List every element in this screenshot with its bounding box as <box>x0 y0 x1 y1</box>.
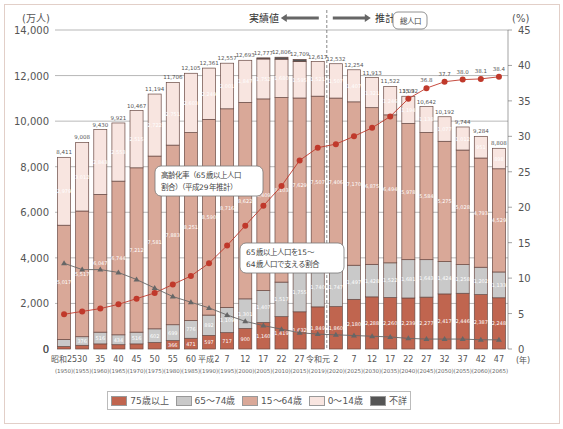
total-label: 12,254 <box>344 62 364 68</box>
segment-label: 597 <box>204 339 214 345</box>
marker-circle-icon <box>496 74 502 80</box>
x-tick-western: (1980) <box>164 368 182 374</box>
segment-label: 2,553 <box>111 149 125 155</box>
x-tick-label: 30 <box>77 355 87 364</box>
segment-label: 2,446 <box>456 318 470 324</box>
marker-circle-icon <box>405 96 411 102</box>
x-tick-label: 42 <box>476 355 486 364</box>
segment-label: 892 <box>204 322 214 328</box>
bar-segment <box>76 345 89 349</box>
segment-label: 900 <box>240 336 250 342</box>
y-right-tick-label: 20 <box>518 202 531 213</box>
y-tick-label: 4,000 <box>20 253 49 264</box>
segment-label: 7,883 <box>166 232 180 238</box>
rate-label: 36.8 <box>420 77 433 83</box>
segment-label: 951 <box>476 144 486 150</box>
bar-segment <box>148 343 161 349</box>
segment-label: 2,722 <box>147 122 161 128</box>
segment-label: 1,849 <box>311 325 325 331</box>
segment-label: 5,017 <box>57 279 71 285</box>
segment-label: 1,301 <box>238 311 252 317</box>
swatch-65-74 <box>176 396 192 406</box>
x-tick-western: (1965) <box>109 368 127 374</box>
x-tick-western: (1990) <box>200 368 218 374</box>
segment-label: 2,249 <box>202 91 216 97</box>
legend-item-15-64: 15〜64歳 <box>242 394 302 407</box>
y-axis-unit: (万人) <box>22 13 50 24</box>
segment-label: 6,494 <box>383 186 397 192</box>
total-label: 12,105 <box>181 65 201 71</box>
x-tick-western: (1985) <box>182 368 200 374</box>
segment-label: 2,417 <box>437 318 451 324</box>
legend-label: 0〜14歳 <box>328 394 363 407</box>
x-tick-label: 12 <box>367 355 377 364</box>
callout-total-text: 総人口 <box>400 16 421 26</box>
segment-label: 1,747 <box>329 284 343 290</box>
marker-circle-icon <box>387 113 393 119</box>
segment-label: 516 <box>132 335 142 341</box>
segment-label: 699 <box>168 330 178 336</box>
segment-label: 5,978 <box>401 189 415 195</box>
total-label: 12,806 <box>272 49 292 55</box>
segment-label: 2,288 <box>365 320 379 326</box>
x-tick-western: (2060) <box>472 368 490 374</box>
callout-aging-text: 割合）（平成29年推計） <box>161 182 237 192</box>
x-tick-western: (1960) <box>91 368 109 374</box>
segment-label: 1,643 <box>419 275 433 281</box>
segment-label: 2,515 <box>129 136 143 142</box>
rate-label: 35.3 <box>402 88 415 94</box>
segment-label: 1,847 <box>238 78 252 84</box>
segment-label: 516 <box>96 335 106 341</box>
marker-circle-icon <box>460 77 466 83</box>
y-right-tick-label: 45 <box>518 25 531 36</box>
segment-label: 717 <box>222 338 232 344</box>
x-tick-label: 7 <box>351 355 356 364</box>
y-tick-label: 6,000 <box>20 207 49 218</box>
segment-label: 776 <box>186 326 196 332</box>
marker-circle-icon <box>369 125 375 131</box>
marker-circle-icon <box>442 79 448 85</box>
marker-circle-icon <box>188 273 194 279</box>
marker-circle-icon <box>423 85 429 91</box>
marker-circle-icon <box>97 306 103 312</box>
x-tick-label: 55 <box>168 355 178 364</box>
y-zero: 0 <box>43 344 49 355</box>
legend-item-65-74: 65〜74歳 <box>176 394 236 407</box>
bar-segment <box>130 344 143 349</box>
swatch-75plus <box>111 396 127 406</box>
marker-circle-icon <box>224 243 230 249</box>
x-tick-label: 17 <box>385 355 395 364</box>
y-tick-label: 14,000 <box>14 25 49 36</box>
bar-segment <box>58 347 71 349</box>
x-tick-western: (2025) <box>345 368 363 374</box>
segment-label: 471 <box>186 341 196 347</box>
segment-label: 8,716 <box>220 205 234 211</box>
total-label: 8,808 <box>491 140 507 146</box>
y-right-tick-label: 35 <box>518 96 531 107</box>
segment-label: 1,321 <box>365 90 379 96</box>
total-label: 9,921 <box>111 115 127 121</box>
rate-label: 38.1 <box>475 68 487 74</box>
segment-label: 5,517 <box>75 271 89 277</box>
x-tick-label: 40 <box>113 355 123 364</box>
legend: 75歳以上 65〜74歳 15〜64歳 0〜14歳 不詳 <box>107 391 411 410</box>
x-tick-label: 22 <box>403 355 413 364</box>
legend-item-unknown: 不詳 <box>370 394 407 407</box>
total-label: 11,706 <box>163 74 183 80</box>
rate-label: 38.4 <box>493 66 506 72</box>
segment-label: 434 <box>114 337 124 343</box>
segment-label: 6,047 <box>93 260 107 266</box>
segment-label: 1,522 <box>383 277 397 283</box>
total-label: 12,557 <box>218 55 238 61</box>
total-label: 12,532 <box>326 56 345 62</box>
x-tick-western: (2030) <box>363 368 381 374</box>
callout-support-text: 65歳以上人口を15〜 <box>246 247 315 257</box>
marker-circle-icon <box>79 308 85 314</box>
bar-segment <box>257 58 270 59</box>
segment-label: 1,407 <box>256 304 270 310</box>
segment-label: 2,979 <box>57 188 71 194</box>
segment-label: 1,407 <box>347 83 361 89</box>
segment-label: 4,793 <box>474 210 488 216</box>
x-axis-unit: (年) <box>516 355 530 365</box>
x-tick-label: 45 <box>131 355 141 364</box>
